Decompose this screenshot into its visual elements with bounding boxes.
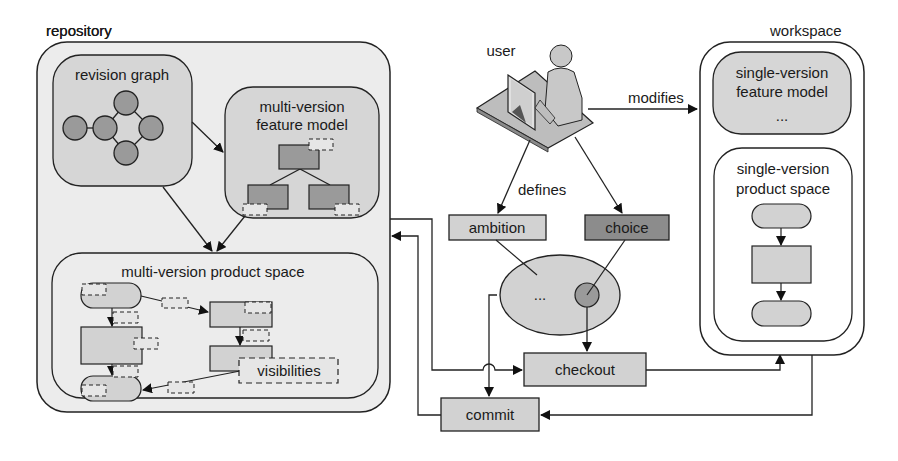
modifies-label: modifies [628, 89, 684, 106]
single-version-feature-model: single-version feature model ... [713, 52, 851, 134]
user-at-computer-icon: user [477, 42, 593, 152]
visibility-tag [82, 385, 106, 396]
repository-title: repository [46, 22, 112, 39]
sv-product-node [752, 204, 811, 228]
feature-model-label-2: feature model [256, 116, 348, 133]
visibility-tag [309, 139, 333, 150]
revision-graph: revision graph [53, 55, 192, 186]
revision-graph-label: revision graph [75, 66, 169, 83]
ellipsis-label: ... [534, 286, 547, 303]
version-space-ellipse: ... [500, 255, 620, 335]
single-version-product-space: single-version product space [714, 148, 852, 341]
sv-product-space-label-2: product space [736, 180, 830, 197]
visibility-tag [243, 204, 267, 215]
visibility-tag [245, 302, 271, 313]
revision-node [63, 116, 87, 140]
sv-product-space-label-1: single-version [737, 160, 830, 177]
user-label: user [486, 42, 515, 59]
product-space-label: multi-version product space [121, 263, 304, 280]
feature-model-label-1: multi-version [259, 98, 344, 115]
choice-label: choice [605, 219, 648, 236]
sv-product-node [752, 301, 811, 326]
commit-label: commit [466, 406, 515, 423]
checkout-box[interactable]: checkout [524, 353, 646, 386]
multi-version-feature-model: multi-version feature model [225, 87, 379, 218]
visibility-tag [243, 330, 269, 341]
product-node [81, 327, 142, 364]
visibility-tag [134, 338, 158, 349]
sv-product-node [752, 246, 811, 283]
workspace-container: workspace single-version feature model .… [700, 22, 864, 355]
sv-feature-model-label-2: feature model [736, 83, 828, 100]
multi-version-product-space: multi-version product space visibilities [52, 253, 378, 401]
visibility-tag [168, 382, 194, 393]
visibility-tag [113, 366, 138, 377]
ambition-box: ambition [449, 215, 546, 240]
revision-node [114, 141, 138, 165]
revision-node [93, 116, 117, 140]
visibility-tag [335, 204, 359, 215]
checkout-label: checkout [555, 361, 616, 378]
choice-box: choice [585, 215, 669, 240]
diagram-drawing: revision graph multi-version feature mod… [0, 0, 898, 461]
revision-node [114, 91, 138, 115]
visibility-tag [113, 312, 138, 323]
visibility-tag [82, 284, 106, 295]
sv-feature-model-ellipsis: ... [776, 107, 789, 124]
visibilities-label: visibilities [257, 362, 320, 379]
commit-box[interactable]: commit [441, 398, 539, 431]
sv-feature-model-label-1: single-version [736, 64, 829, 81]
revision-node [139, 116, 163, 140]
workspace-label: workspace [769, 22, 842, 39]
defines-label: defines [518, 181, 566, 198]
visibility-tag [162, 298, 188, 308]
ambition-label: ambition [469, 219, 526, 236]
